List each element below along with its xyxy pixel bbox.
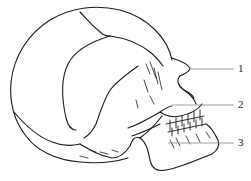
label-3: 3 [238,137,244,148]
orbit-rim [172,58,196,104]
mandible-hatching [170,132,210,148]
coronal-suture [80,12,110,36]
temporal-hatching [136,62,162,108]
lower-teeth [168,118,206,136]
zygomatic-arch [128,106,172,128]
cranium-outline [11,7,172,163]
lambdoid-suture [14,112,80,145]
label-2: 2 [238,99,244,110]
label-1: 1 [238,63,244,74]
upper-teeth [166,110,204,130]
squamosal-suture [63,36,111,130]
temporal-line [110,36,163,66]
maxilla [160,104,202,117]
mastoid [80,137,140,158]
mandible-ramus [140,116,162,138]
mandible [140,124,219,171]
skull-diagram [0,0,251,181]
zygomatic-arch-lower [132,124,160,136]
